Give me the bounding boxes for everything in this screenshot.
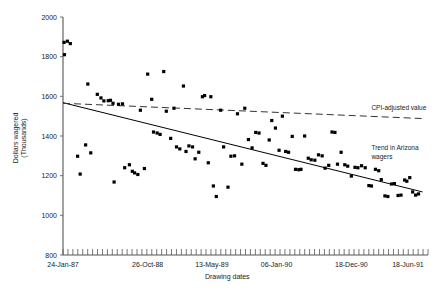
data-point	[390, 182, 393, 185]
data-point	[380, 178, 383, 181]
x-tick-label: 06-Jan-90	[261, 261, 293, 268]
data-point	[187, 144, 190, 147]
y-tick-label: 2000	[41, 14, 57, 21]
data-point	[191, 145, 194, 148]
data-point	[284, 150, 287, 153]
y-tick-label: 1000	[41, 212, 57, 219]
data-point	[350, 174, 353, 177]
data-point	[111, 102, 114, 105]
data-point	[128, 163, 131, 166]
data-point	[182, 84, 185, 87]
trend-in-arizona-wagers-label: Trend in Arizonawagers	[370, 144, 418, 161]
data-point	[96, 93, 99, 96]
data-point	[411, 190, 414, 193]
data-point	[299, 168, 302, 171]
y-tick-label: 800	[45, 252, 57, 259]
y-tick-label: 1200	[41, 172, 57, 179]
y-tick-label: 1400	[41, 133, 57, 140]
data-point	[66, 40, 69, 43]
data-point	[62, 41, 65, 44]
data-point	[281, 115, 284, 118]
data-point	[117, 103, 120, 106]
data-point	[86, 82, 89, 85]
data-point	[139, 109, 142, 112]
data-point	[184, 150, 187, 153]
data-point	[393, 182, 396, 185]
data-point	[374, 168, 377, 171]
data-point	[386, 195, 389, 198]
data-point	[317, 153, 320, 156]
data-point	[383, 194, 386, 197]
data-point	[79, 172, 82, 175]
data-point	[172, 107, 175, 110]
data-point	[123, 166, 126, 169]
data-point	[287, 151, 290, 154]
data-point	[336, 163, 339, 166]
data-point	[76, 155, 79, 158]
data-point	[353, 166, 356, 169]
data-point	[346, 165, 349, 168]
data-point	[247, 138, 250, 141]
data-point	[243, 107, 246, 110]
data-point	[370, 184, 373, 187]
data-point	[109, 99, 112, 102]
data-point	[158, 133, 161, 136]
data-point	[343, 163, 346, 166]
data-point	[197, 151, 200, 154]
x-tick-label: 13-May-89	[195, 261, 229, 269]
data-point	[69, 42, 72, 45]
data-point	[162, 70, 165, 73]
x-tick-label: 26-Oct-88	[132, 261, 163, 268]
data-point	[377, 169, 380, 172]
data-point	[194, 157, 197, 160]
data-point	[291, 135, 294, 138]
data-point	[236, 112, 239, 115]
data-point	[330, 130, 333, 133]
data-point	[169, 137, 172, 140]
data-point	[209, 95, 212, 98]
data-point	[212, 184, 215, 187]
data-point	[178, 147, 181, 150]
data-point	[102, 99, 105, 102]
y-tick-label: 1600	[41, 93, 57, 100]
cpi-adjusted-value-label: CPI-adjusted value	[371, 104, 426, 112]
data-point	[229, 155, 232, 158]
data-point	[240, 163, 243, 166]
data-point	[261, 162, 264, 165]
data-point	[226, 186, 229, 189]
data-point	[356, 166, 359, 169]
data-point	[277, 149, 280, 152]
trend-line	[63, 103, 423, 192]
data-point	[63, 53, 66, 56]
data-point	[99, 96, 102, 99]
data-point	[360, 164, 363, 167]
data-point	[364, 166, 367, 169]
data-point	[310, 158, 313, 161]
data-point	[333, 131, 336, 134]
data-point	[254, 131, 257, 134]
data-point	[414, 194, 417, 197]
data-point	[264, 164, 267, 167]
data-point	[136, 173, 139, 176]
data-point	[294, 168, 297, 171]
data-point	[165, 110, 168, 113]
data-point	[175, 145, 178, 148]
data-point	[207, 161, 210, 164]
data-point	[203, 94, 206, 97]
data-point	[274, 126, 277, 129]
y-tick-label: 1800	[41, 53, 57, 60]
chart-container: 20001800160014001200100080024-Jan-8726-O…	[0, 0, 435, 295]
data-point	[89, 151, 92, 154]
data-point	[417, 192, 420, 195]
data-point	[219, 109, 222, 112]
data-point	[313, 159, 316, 162]
x-tick-label: 18-Jun-91	[392, 261, 424, 268]
data-point	[396, 194, 399, 197]
data-point	[408, 176, 411, 179]
data-point	[323, 167, 326, 170]
data-point	[340, 151, 343, 154]
x-axis-title: Drawing dates	[205, 273, 250, 281]
data-point	[222, 145, 225, 148]
y-axis-title: Dollars wagered(Thousands)	[12, 113, 28, 164]
data-point	[150, 98, 153, 101]
